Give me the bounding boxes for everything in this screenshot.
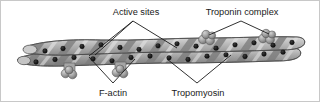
label-active-sites: Active sites	[113, 7, 160, 17]
diagram-figure: Active sites Troponin complex F-actin Tr…	[0, 0, 320, 102]
label-f-actin: F-actin	[99, 88, 127, 98]
troponin-complex-upper-a	[199, 30, 216, 45]
label-troponin-complex: Troponin complex	[206, 7, 279, 17]
troponin-complex-upper-b	[259, 29, 276, 44]
leader-troponin-complex	[209, 21, 269, 35]
label-tropomyosin: Tropomyosin	[172, 88, 225, 98]
filament-diagram-canvas: Active sites Troponin complex F-actin Tr…	[1, 1, 320, 102]
